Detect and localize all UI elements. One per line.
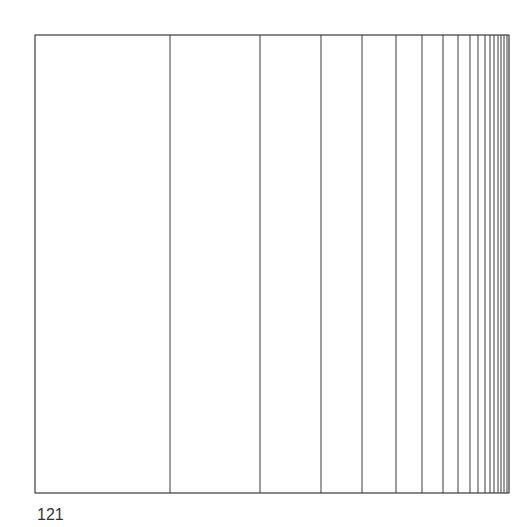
vertical-divider-lines xyxy=(170,35,507,493)
page-number: 121 xyxy=(37,506,64,524)
converging-lines-figure xyxy=(0,0,530,527)
square-frame xyxy=(35,35,509,493)
